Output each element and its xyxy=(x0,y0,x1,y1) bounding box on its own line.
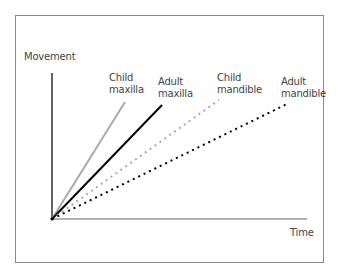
adult-mandible-label: Adult mandible xyxy=(281,76,326,100)
adult-maxilla-line xyxy=(52,105,162,219)
origin-point xyxy=(51,218,54,221)
child-mandible-line xyxy=(52,100,219,219)
growth-diagram xyxy=(0,0,338,275)
child-maxilla-label: Child maxilla xyxy=(109,72,144,96)
y-axis-label: Movement xyxy=(24,51,75,63)
x-axis-label: Time xyxy=(290,227,314,239)
adult-maxilla-label: Adult maxilla xyxy=(158,76,193,100)
child-maxilla-line xyxy=(52,102,125,219)
child-mandible-label: Child mandible xyxy=(217,72,262,96)
